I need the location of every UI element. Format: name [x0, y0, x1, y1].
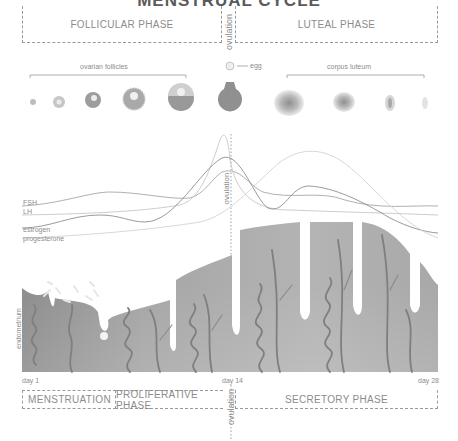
corpus-luteum: [274, 90, 428, 116]
menstruation-phase-box: MENSTRUATION: [22, 390, 116, 409]
follicles-bracket: [30, 75, 424, 78]
proliferative-label: PROLIFERATIVE PHASE: [116, 389, 223, 411]
endometrium-label: endometrium: [15, 304, 22, 354]
secretory-label: SECRETORY PHASE: [285, 394, 388, 405]
legend-lh: LH: [23, 208, 32, 215]
ovarian-follicles: [30, 62, 248, 111]
legend-fsh: FSH: [23, 199, 37, 206]
menstruation-label: MENSTRUATION: [28, 394, 111, 405]
secretory-phase-box: SECRETORY PHASE: [235, 390, 438, 409]
proliferative-phase-box: PROLIFERATIVE PHASE: [115, 390, 223, 409]
day-28-label: day 28: [418, 377, 439, 384]
diagram-graphics: [0, 0, 458, 441]
legend-progesterone: progesterone: [23, 235, 64, 242]
endometrium-tissue: [22, 222, 438, 372]
ovulation-label-bottom: ovulation: [226, 382, 236, 432]
day-1-label: day 1: [22, 377, 39, 384]
ovulation-label-chart: ovulation: [222, 164, 231, 214]
legend-estrogen: estrogen: [23, 226, 50, 233]
